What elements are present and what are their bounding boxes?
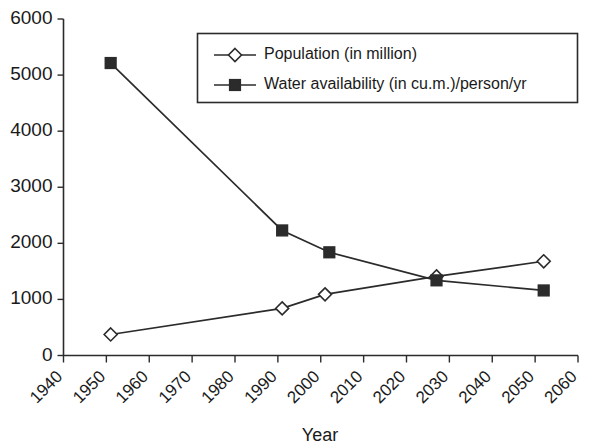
x-tick-label: 1940 xyxy=(26,367,66,407)
x-tick-label: 2020 xyxy=(369,367,409,407)
legend-label: Water availability (in cu.m.)/person/yr xyxy=(264,75,527,92)
data-point xyxy=(537,255,550,268)
y-tick-label: 6000 xyxy=(10,7,52,28)
data-point xyxy=(538,285,549,296)
x-tick-label: 1980 xyxy=(198,367,238,407)
x-tick-label: 1960 xyxy=(112,367,152,407)
x-tick-label: 2050 xyxy=(498,367,538,407)
data-point xyxy=(431,275,442,286)
legend-marker xyxy=(230,80,241,91)
x-axis-title: Year xyxy=(302,425,338,445)
data-point xyxy=(324,247,335,258)
x-tick-label: 2060 xyxy=(541,367,581,407)
x-tick-label: 1990 xyxy=(241,367,281,407)
x-axis-ticks xyxy=(64,356,579,363)
y-tick-label: 5000 xyxy=(10,63,52,84)
x-tick-label: 2010 xyxy=(326,367,366,407)
y-axis-ticks xyxy=(58,19,64,356)
data-point xyxy=(104,328,117,341)
chart-canvas: 0100020003000400050006000 19401950196019… xyxy=(0,0,598,448)
x-tick-label: 1950 xyxy=(69,367,109,407)
chart-figure: 0100020003000400050006000 19401950196019… xyxy=(0,0,598,448)
y-tick-label: 3000 xyxy=(10,175,52,196)
y-tick-label: 1000 xyxy=(10,287,52,308)
x-tick-label: 2030 xyxy=(412,367,452,407)
series-1 xyxy=(104,255,550,341)
y-tick-label: 4000 xyxy=(10,119,52,140)
y-axis-tick-labels: 0100020003000400050006000 xyxy=(10,7,52,365)
x-tick-label: 2000 xyxy=(283,367,323,407)
x-tick-label: 1970 xyxy=(155,367,195,407)
y-tick-label: 2000 xyxy=(10,231,52,252)
x-axis-tick-labels: 1940195019601970198019902000201020202030… xyxy=(26,367,581,407)
data-point xyxy=(276,302,289,315)
y-tick-label: 0 xyxy=(42,344,53,365)
data-point xyxy=(105,58,116,69)
x-tick-label: 2040 xyxy=(455,367,495,407)
legend-label: Population (in million) xyxy=(264,45,417,62)
data-point xyxy=(319,288,332,301)
chart-legend: Population (in million)Water availabilit… xyxy=(198,34,578,103)
data-point xyxy=(277,225,288,236)
